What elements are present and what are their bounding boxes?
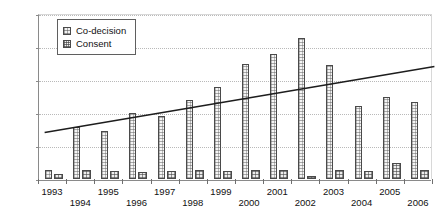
legend-swatch-icon [63,27,71,35]
x-tick-label: 1993 [29,187,75,197]
x-tick-label: 2004 [339,198,385,208]
y-tick-mark [36,114,39,115]
chart-legend: Co-decision Consent [57,19,136,55]
legend-item-consent: Consent [63,37,126,50]
x-tick-label: 1999 [198,187,244,197]
x-axis: 1993199419951996199719981999200020012002… [38,179,432,214]
x-tick-mark [348,179,349,184]
x-tick-label: 2006 [395,198,438,208]
x-tick-mark [207,179,208,184]
y-tick-mark [36,81,39,82]
legend-label: Consent [76,39,111,49]
x-tick-mark [94,179,95,184]
x-tick-mark [38,179,39,184]
x-tick-label: 1996 [114,198,160,208]
y-tick-mark [36,48,39,49]
bar-chart: 050100150200250 199319941995199619971998… [0,0,438,214]
legend-swatch-icon [63,40,71,48]
legend-item-co-decision: Co-decision [63,24,126,37]
x-tick-label: 2000 [226,198,272,208]
x-tick-mark [432,179,433,184]
x-tick-mark [263,179,264,184]
x-tick-mark [151,179,152,184]
x-tick-label: 1998 [170,198,216,208]
y-tick-mark [36,147,39,148]
x-tick-label: 2001 [254,187,300,197]
x-tick-label: 1994 [57,198,103,208]
x-tick-mark [404,179,405,184]
x-tick-mark [376,179,377,184]
x-tick-label: 2005 [367,187,413,197]
x-tick-mark [179,179,180,184]
x-tick-label: 1997 [142,187,188,197]
x-tick-mark [235,179,236,184]
x-tick-mark [319,179,320,184]
x-tick-mark [122,179,123,184]
legend-label: Co-decision [76,26,126,36]
x-tick-label: 1995 [85,187,131,197]
x-tick-mark [66,179,67,184]
x-tick-mark [291,179,292,184]
x-tick-label: 2003 [311,187,357,197]
y-tick-mark [36,15,39,16]
x-tick-label: 2002 [282,198,328,208]
